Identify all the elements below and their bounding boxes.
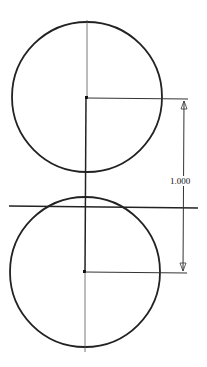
dimension-label[interactable]: 1.000 <box>170 176 190 186</box>
center-connector <box>85 97 86 272</box>
dimension-line <box>183 101 184 271</box>
top-center-point <box>85 96 88 99</box>
extension-line-bottom <box>85 272 187 273</box>
bottom-center-point <box>83 270 86 273</box>
extension-line-top <box>87 98 188 99</box>
horizontal-reference-line <box>9 206 198 208</box>
drawing-canvas: 1.000 <box>0 0 207 367</box>
